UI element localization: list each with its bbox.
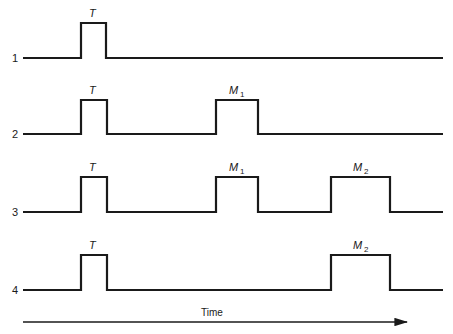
row-label: 2 xyxy=(12,128,18,140)
time-axis-label: Time xyxy=(201,307,223,318)
pulse-label-m2: M xyxy=(353,239,363,251)
row-4: 4 T M 2 xyxy=(12,239,443,296)
row-2: 2 T M 1 xyxy=(12,84,443,140)
pulse-label-t: T xyxy=(89,84,97,96)
row-label: 3 xyxy=(12,206,18,218)
row-label: 4 xyxy=(12,284,18,296)
pulse-label-subscript: 1 xyxy=(240,90,245,99)
pulse-label-t: T xyxy=(89,239,97,251)
pulse-label-t: T xyxy=(89,7,97,19)
pulse-label-subscript: 2 xyxy=(364,245,369,254)
pulse-label-subscript: 2 xyxy=(364,167,369,176)
timing-diagram: 1 T 2 T M 1 3 T M 1 M 2 4 T M 2 Time xyxy=(0,0,453,334)
row-label: 1 xyxy=(12,52,18,64)
row-3: 3 T M 1 M 2 xyxy=(12,161,443,218)
pulse-label-m2: M xyxy=(353,161,363,173)
pulse-label-t: T xyxy=(89,161,97,173)
signal-waveform xyxy=(23,177,443,212)
signal-waveform xyxy=(23,255,443,290)
signal-waveform xyxy=(23,100,443,134)
pulse-label-m1: M xyxy=(229,84,239,96)
pulse-label-m1: M xyxy=(229,161,239,173)
signal-waveform xyxy=(23,23,443,58)
row-1: 1 T xyxy=(12,7,443,64)
pulse-label-subscript: 1 xyxy=(240,167,245,176)
time-axis: Time xyxy=(23,307,407,322)
